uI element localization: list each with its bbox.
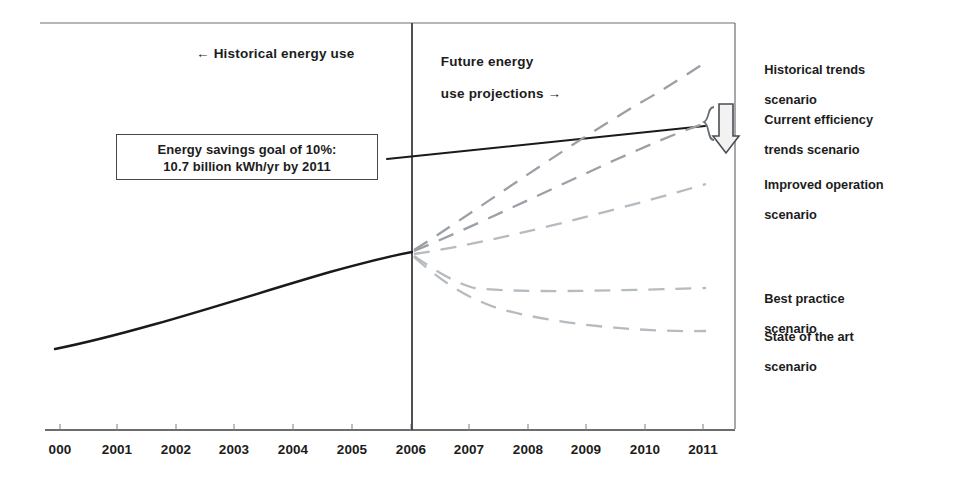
x-axis-tick-label: 2004 xyxy=(265,442,321,457)
period-label-future: Future energy use projections → xyxy=(425,38,561,118)
scenario-label-improved-operation-line1: Improved operation xyxy=(764,177,883,192)
series-historical-energy-use xyxy=(55,252,412,349)
series-best-practice-scenario xyxy=(414,256,706,291)
scenario-label-current-efficiency-trends-line1: Current efficiency xyxy=(764,112,873,127)
goal-callout-line2: 10.7 billion kWh/yr by 2011 xyxy=(117,159,377,174)
series-state-of-the-art-scenario xyxy=(414,257,706,331)
goal-callout-line1: Energy savings goal of 10%: xyxy=(117,142,377,157)
x-axis-tick-label: 2007 xyxy=(441,442,497,457)
x-axis-tick-label: 2006 xyxy=(383,442,439,457)
scenario-label-current-efficiency-trends-line2: trends scenario xyxy=(764,142,859,157)
period-label-future-line1: Future energy xyxy=(441,54,534,69)
energy-scenarios-chart: ← Historical energy use Future energy us… xyxy=(0,0,953,477)
scenario-label-improved-operation: Improved operation scenario xyxy=(750,162,884,237)
x-axis-tick-label: 2011 xyxy=(675,442,731,457)
scenario-label-state-of-the-art-line1: State of the art xyxy=(764,329,854,344)
series-energy-savings-goal xyxy=(387,126,705,159)
period-label-historical: ← Historical energy use xyxy=(196,46,354,62)
scenario-label-best-practice-line1: Best practice xyxy=(764,291,844,306)
energy-savings-goal-callout: Energy savings goal of 10%: 10.7 billion… xyxy=(116,134,378,180)
x-axis-tick-label: 2009 xyxy=(558,442,614,457)
brace-icon xyxy=(704,107,714,140)
scenario-label-historical-trends-line1: Historical trends xyxy=(764,62,865,77)
x-axis-tick-label: 2003 xyxy=(206,442,262,457)
scenario-label-state-of-the-art: State of the art scenario xyxy=(750,314,854,389)
x-axis-tick-label: 2005 xyxy=(324,442,380,457)
scenario-label-state-of-the-art-line2: scenario xyxy=(764,359,817,374)
savings-gap-arrow xyxy=(704,104,739,153)
series-current-efficiency-trends-scenario xyxy=(414,123,706,251)
period-label-future-line2: use projections → xyxy=(441,86,561,101)
series-improved-operation-scenario xyxy=(414,184,706,254)
x-axis-tick-label: 2010 xyxy=(617,442,673,457)
x-axis-tick-label: 2002 xyxy=(148,442,204,457)
x-axis-tick-label: 2001 xyxy=(89,442,145,457)
x-axis-tick-label: 2008 xyxy=(500,442,556,457)
x-axis-ticks xyxy=(60,424,703,430)
scenario-label-improved-operation-line2: scenario xyxy=(764,207,817,222)
x-axis-tick-label: 000 xyxy=(32,442,88,457)
